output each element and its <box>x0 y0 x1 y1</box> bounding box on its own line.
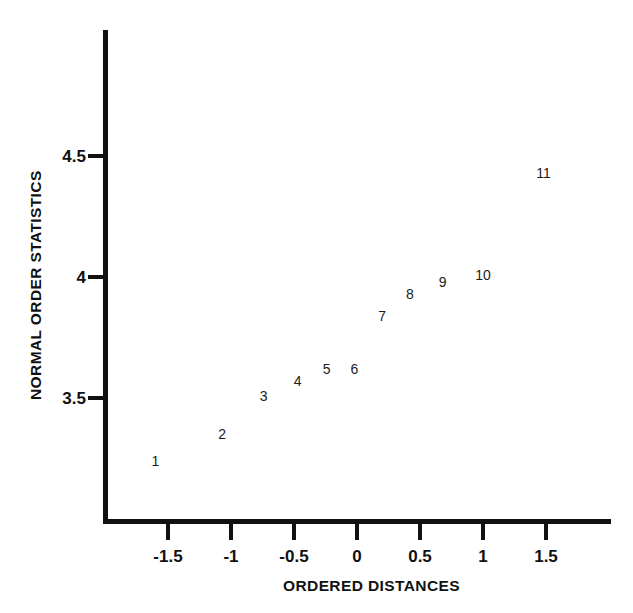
x-axis-tick <box>481 524 485 540</box>
y-axis-tick-label: 4.5 <box>36 148 86 165</box>
data-point: 7 <box>378 309 386 323</box>
data-point: 11 <box>536 166 551 180</box>
data-point: 4 <box>294 374 302 388</box>
y-axis-tick <box>88 275 104 279</box>
x-axis-tick-label: -1.5 <box>138 548 198 565</box>
data-point: 3 <box>260 389 268 403</box>
y-axis-tick <box>88 396 104 400</box>
x-axis-tick-label: -1 <box>201 548 261 565</box>
data-point: 1 <box>151 454 159 468</box>
x-axis-tick <box>418 524 422 540</box>
x-axis-tick <box>229 524 233 540</box>
x-axis-tick <box>355 524 359 540</box>
x-axis-tick-label: 1 <box>453 548 513 565</box>
data-point: 9 <box>439 275 447 289</box>
x-axis-tick <box>544 524 548 540</box>
x-axis-title: ORDERED DISTANCES <box>0 578 633 594</box>
x-axis-tick-label: 0 <box>327 548 387 565</box>
data-point: 10 <box>475 268 491 282</box>
data-point: 5 <box>323 362 331 376</box>
x-axis-tick-label: 1.5 <box>516 548 576 565</box>
x-axis-tick <box>166 524 170 540</box>
data-point: 8 <box>406 287 414 301</box>
y-axis-title: NORMAL ORDER STATISTICS <box>28 100 44 400</box>
data-point: 2 <box>218 427 226 441</box>
data-point: 6 <box>351 362 359 376</box>
y-axis-tick <box>88 154 104 158</box>
x-axis-tick-label: 0.5 <box>390 548 450 565</box>
normal-probability-plot: 4.5 4 3.5 -1.5 -1 -0.5 0 0.5 1 1.5 NORMA… <box>0 0 633 613</box>
x-axis-tick <box>292 524 296 540</box>
x-axis-tick-label: -0.5 <box>264 548 324 565</box>
